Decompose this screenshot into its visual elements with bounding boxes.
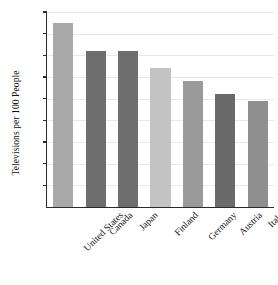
x-axis-tick-label: Germany <box>207 210 239 242</box>
y-axis-tick <box>43 33 47 34</box>
y-axis-tick <box>43 76 47 77</box>
plot-area: 102030405060708090 <box>46 12 274 208</box>
y-axis-tick <box>43 120 47 121</box>
bar <box>215 94 235 207</box>
y-axis-tick <box>43 163 47 164</box>
bar <box>183 81 203 207</box>
bar <box>150 68 170 207</box>
y-axis-tick <box>43 98 47 99</box>
bar-chart: Televisions per 100 People 1020304050607… <box>0 0 278 285</box>
x-axis-tick-label: Japan <box>138 210 160 232</box>
y-axis-tick <box>43 185 47 186</box>
bar <box>248 101 268 207</box>
x-axis-tick-label: Austria <box>237 210 264 237</box>
y-axis-tick <box>43 55 47 56</box>
x-axis-tick-label: Italy <box>266 210 278 229</box>
x-axis-tick-label: Finland <box>172 210 200 238</box>
y-axis-tick <box>43 11 47 12</box>
bars-group <box>47 12 274 207</box>
bar <box>53 23 73 207</box>
y-axis-title: Televisions per 100 People <box>11 48 21 198</box>
x-axis-labels: United StatesCanadaJapanFinlandGermanyAu… <box>46 210 274 284</box>
bar <box>86 51 106 207</box>
bar <box>118 51 138 207</box>
y-axis-tick <box>43 141 47 142</box>
